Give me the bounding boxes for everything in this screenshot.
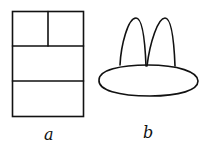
figure-b-arch-left <box>120 18 146 66</box>
figure-a <box>13 12 84 117</box>
figure-a-label: a <box>44 127 54 143</box>
figure-b <box>99 18 198 96</box>
figure-b-arch-right <box>147 18 175 66</box>
figure-b-base-ellipse <box>99 65 198 96</box>
diagram-canvas <box>0 0 200 149</box>
figure-b-label: b <box>143 125 153 141</box>
